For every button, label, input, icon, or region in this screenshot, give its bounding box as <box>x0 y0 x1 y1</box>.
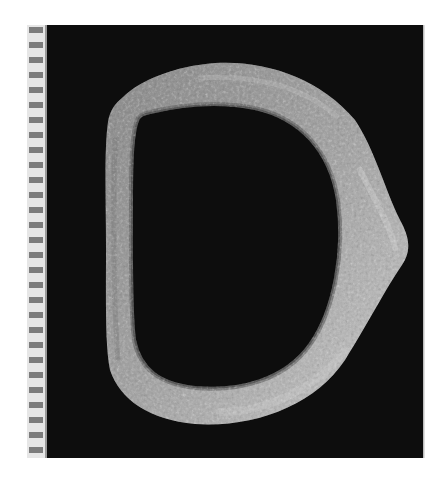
artifact-photograph <box>0 0 439 480</box>
backdrop-edge <box>423 25 425 458</box>
measuring-scale <box>27 25 47 458</box>
